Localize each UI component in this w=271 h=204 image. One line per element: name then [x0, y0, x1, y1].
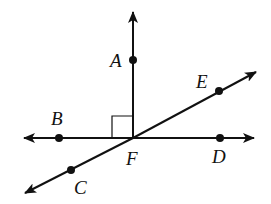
point-a [129, 56, 137, 64]
line-ce-upper [133, 72, 256, 138]
label-a: A [108, 50, 122, 71]
label-c: C [74, 177, 87, 198]
point-c [67, 166, 75, 174]
label-f: F [125, 148, 138, 169]
geometry-diagram: A B C D E F [0, 0, 271, 204]
point-d [216, 134, 224, 142]
point-b [55, 134, 63, 142]
right-angle-marker [112, 116, 133, 138]
label-e: E [195, 71, 208, 92]
label-d: D [211, 146, 226, 167]
label-b: B [51, 108, 63, 129]
point-e [215, 87, 223, 95]
